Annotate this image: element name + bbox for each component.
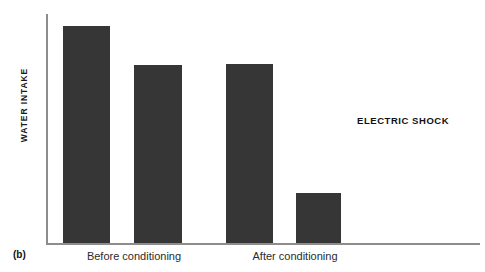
bar-1 <box>63 26 110 243</box>
x-tick-label-after-conditioning: After conditioning <box>243 250 347 262</box>
y-axis-title: WATER INTAKE <box>19 45 29 165</box>
x-tick-label-before-conditioning: Before conditioning <box>78 250 190 262</box>
panel-label: (b) <box>13 249 26 260</box>
y-axis-line <box>46 14 48 244</box>
bar-4 <box>296 193 341 243</box>
bar-2 <box>134 65 182 243</box>
bar-3 <box>226 64 273 243</box>
bar-chart-figure: WATER INTAKE Before conditioning After c… <box>0 0 485 272</box>
x-axis-line <box>46 243 480 245</box>
annotation-electric-shock: ELECTRIC SHOCK <box>357 115 449 126</box>
